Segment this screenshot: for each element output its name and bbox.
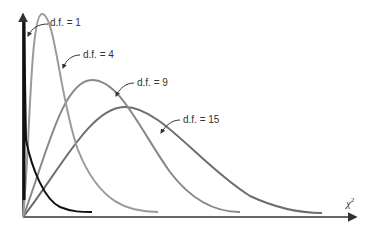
curve-df-4 [23, 14, 158, 217]
label-df-1: d.f. = 1 [50, 17, 81, 28]
label-df-9: d.f. = 9 [137, 77, 168, 88]
curve-df-15 [23, 107, 322, 217]
label-df-4: d.f. = 4 [83, 49, 114, 60]
leader-df-1 [28, 24, 48, 36]
curve-df-9 [23, 80, 240, 217]
x-axis-label: χ2 [346, 196, 354, 209]
chi-exponent: 2 [351, 196, 355, 204]
label-df-15: d.f. = 15 [183, 114, 219, 125]
leader-df-4 [63, 55, 80, 68]
